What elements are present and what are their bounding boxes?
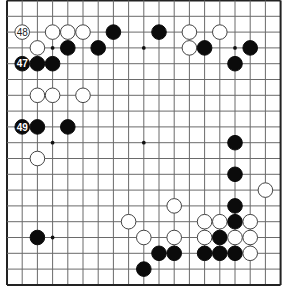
move-number-label: 49 bbox=[17, 122, 29, 133]
star-point-icon bbox=[51, 46, 55, 50]
star-point-icon bbox=[233, 46, 237, 50]
black-stone-icon bbox=[61, 120, 76, 135]
black-stone bbox=[228, 199, 243, 214]
black-stone bbox=[106, 25, 121, 40]
black-stone-icon bbox=[45, 56, 60, 71]
black-stone-icon bbox=[152, 25, 167, 40]
white-stone-icon bbox=[30, 151, 45, 166]
black-stone bbox=[45, 56, 60, 71]
black-stone-49: 49 bbox=[15, 120, 30, 135]
black-stone-icon bbox=[106, 25, 121, 40]
black-stone-icon bbox=[228, 135, 243, 150]
white-stone-icon bbox=[243, 246, 258, 261]
black-stone bbox=[167, 246, 182, 261]
black-stone bbox=[137, 262, 152, 277]
black-stone-icon bbox=[197, 246, 212, 261]
white-stone-icon bbox=[30, 88, 45, 103]
move-number-label: 47 bbox=[17, 58, 29, 69]
go-board: 484749 bbox=[0, 0, 283, 293]
black-stone bbox=[228, 135, 243, 150]
white-stone-icon bbox=[213, 214, 228, 229]
white-stone-icon bbox=[243, 214, 258, 229]
black-stone bbox=[213, 246, 228, 261]
black-stone-icon bbox=[228, 56, 243, 71]
black-stone bbox=[152, 25, 167, 40]
black-stone-47: 47 bbox=[15, 56, 30, 71]
white-stone-icon bbox=[228, 230, 243, 245]
star-point-icon bbox=[51, 141, 55, 145]
black-stone-icon bbox=[91, 41, 106, 56]
white-stone bbox=[30, 41, 45, 56]
white-stone-icon bbox=[182, 41, 197, 56]
white-stone bbox=[30, 151, 45, 166]
white-stone-icon bbox=[167, 230, 182, 245]
white-stone-icon bbox=[258, 183, 273, 198]
black-stone-icon bbox=[137, 262, 152, 277]
white-stone bbox=[243, 246, 258, 261]
white-stone bbox=[121, 214, 136, 229]
star-point-icon bbox=[142, 46, 146, 50]
black-stone-icon bbox=[213, 246, 228, 261]
black-stone-icon bbox=[61, 41, 76, 56]
go-board-diagram: 484749 bbox=[0, 0, 283, 293]
white-stone-icon bbox=[167, 199, 182, 214]
black-stone-icon bbox=[30, 230, 45, 245]
star-point-icon bbox=[142, 141, 146, 145]
black-stone bbox=[61, 120, 76, 135]
white-stone bbox=[197, 214, 212, 229]
black-stone bbox=[197, 246, 212, 261]
black-stone-icon bbox=[30, 56, 45, 71]
black-stone bbox=[197, 41, 212, 56]
star-point-icon bbox=[51, 236, 55, 240]
black-stone bbox=[30, 120, 45, 135]
white-stone bbox=[243, 214, 258, 229]
black-stone bbox=[243, 41, 258, 56]
white-stone-icon bbox=[243, 230, 258, 245]
white-stone-icon bbox=[137, 230, 152, 245]
black-stone-icon bbox=[213, 230, 228, 245]
black-stone bbox=[228, 56, 243, 71]
move-number-label: 48 bbox=[17, 27, 29, 38]
white-stone bbox=[76, 88, 91, 103]
black-stone bbox=[91, 41, 106, 56]
white-stone-icon bbox=[76, 88, 91, 103]
white-stone-icon bbox=[197, 214, 212, 229]
black-stone-icon bbox=[228, 246, 243, 261]
white-stone-48: 48 bbox=[15, 25, 30, 40]
white-stone bbox=[213, 25, 228, 40]
white-stone bbox=[167, 199, 182, 214]
white-stone-icon bbox=[45, 25, 60, 40]
white-stone bbox=[45, 25, 60, 40]
white-stone bbox=[182, 41, 197, 56]
black-stone-icon bbox=[228, 199, 243, 214]
white-stone-icon bbox=[197, 230, 212, 245]
black-stone-icon bbox=[167, 246, 182, 261]
white-stone-icon bbox=[121, 214, 136, 229]
white-stone-icon bbox=[182, 25, 197, 40]
white-stone bbox=[30, 88, 45, 103]
white-stone bbox=[243, 230, 258, 245]
black-stone-icon bbox=[152, 246, 167, 261]
black-stone bbox=[228, 214, 243, 229]
white-stone bbox=[182, 25, 197, 40]
white-stone-icon bbox=[213, 25, 228, 40]
black-stone-icon bbox=[228, 214, 243, 229]
black-stone bbox=[30, 56, 45, 71]
white-stone bbox=[137, 230, 152, 245]
white-stone bbox=[197, 230, 212, 245]
white-stone-icon bbox=[45, 88, 60, 103]
white-stone bbox=[45, 88, 60, 103]
black-stone-icon bbox=[30, 120, 45, 135]
black-stone bbox=[61, 41, 76, 56]
white-stone-icon bbox=[30, 41, 45, 56]
black-stone bbox=[213, 230, 228, 245]
white-stone bbox=[258, 183, 273, 198]
white-stone-icon bbox=[61, 25, 76, 40]
white-stone bbox=[61, 25, 76, 40]
black-stone-icon bbox=[197, 41, 212, 56]
black-stone bbox=[228, 167, 243, 182]
black-stone bbox=[228, 246, 243, 261]
black-stone-icon bbox=[228, 167, 243, 182]
black-stone-icon bbox=[243, 41, 258, 56]
black-stone bbox=[152, 246, 167, 261]
